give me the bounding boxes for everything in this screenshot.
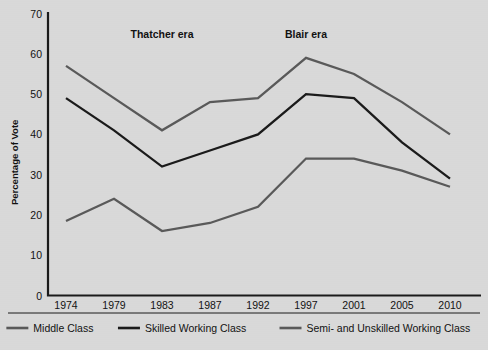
series-line-skilled-working-class: [66, 94, 450, 179]
x-axis-tick-label: 2010: [438, 299, 462, 311]
x-axis-tick-label: 2001: [342, 299, 366, 311]
y-axis-title-text: Percentage of Vote: [9, 120, 20, 205]
x-axis-tick-label: 1997: [294, 299, 318, 311]
series-line-middle-class: [66, 58, 450, 135]
x-axis-tick-label: 1974: [54, 299, 78, 311]
y-axis-ticks: 010203040506070: [30, 8, 42, 302]
y-axis-tick-label: 50: [30, 88, 42, 100]
annotation-thatcher-era: Thatcher era: [130, 28, 193, 40]
series-line-semi-and-unskilled-working-class: [66, 159, 450, 232]
x-axis-tick-label: 1992: [246, 299, 270, 311]
y-axis-tick-label: 20: [30, 209, 42, 221]
series-lines: [66, 58, 450, 231]
x-axis-tick-label: 2005: [390, 299, 414, 311]
y-axis-tick-label: 40: [30, 128, 42, 140]
legend-label-skilled-working-class: Skilled Working Class: [145, 322, 246, 334]
x-axis-ticks: 197419791983198719921997200120052010: [54, 299, 462, 311]
chart-legend: Middle ClassSkilled Working ClassSemi- a…: [6, 322, 470, 334]
y-axis-tick-label: 30: [30, 169, 42, 181]
annotation-blair-era: Blair era: [285, 28, 327, 40]
chart-annotations: Thatcher eraBlair era: [130, 28, 327, 40]
y-axis-title: Percentage of Vote: [9, 120, 20, 205]
y-axis-tick-label: 70: [30, 8, 42, 20]
line-chart: Percentage of Vote 010203040506070 19741…: [0, 0, 488, 350]
chart-container: Percentage of Vote 010203040506070 19741…: [0, 0, 488, 350]
y-axis-tick-label: 10: [30, 249, 42, 261]
legend-label-semi-and-unskilled-working-class: Semi- and Unskilled Working Class: [307, 322, 471, 334]
x-axis-tick-label: 1983: [150, 299, 174, 311]
x-axis-tick-label: 1979: [102, 299, 126, 311]
legend-label-middle-class: Middle Class: [33, 322, 93, 334]
y-axis-tick-label: 0: [36, 290, 42, 302]
y-axis-tick-label: 60: [30, 48, 42, 60]
x-axis-tick-label: 1987: [198, 299, 222, 311]
